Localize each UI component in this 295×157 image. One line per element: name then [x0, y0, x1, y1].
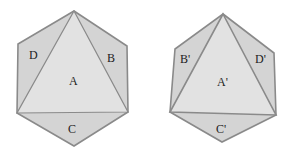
diagram-canvas: D B A C B' D' A' C' [0, 0, 295, 157]
label-a-prime: A' [217, 75, 228, 89]
label-b: B [107, 51, 115, 65]
label-c: C [68, 122, 76, 136]
label-b-prime: B' [180, 52, 190, 66]
label-a: A [69, 74, 78, 88]
label-d: D [29, 48, 38, 62]
label-d-prime: D' [255, 52, 266, 66]
hexagon-figure-transformed: B' D' A' C' [170, 14, 276, 142]
hexagon-figure-original: D B A C [17, 11, 128, 146]
label-c-prime: C' [216, 122, 226, 136]
